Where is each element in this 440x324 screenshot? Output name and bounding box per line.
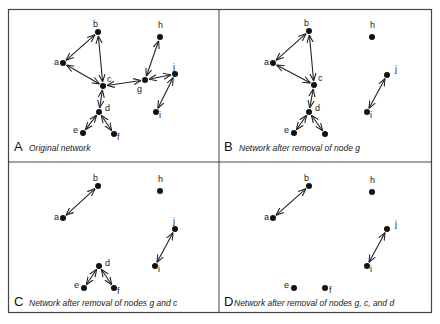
node-b bbox=[95, 29, 101, 35]
node-h bbox=[369, 189, 375, 195]
panel-caption: Network after removal of node g bbox=[239, 143, 360, 153]
node-e bbox=[81, 285, 87, 291]
node-label-a: a bbox=[54, 212, 59, 222]
node-label-j: j bbox=[172, 62, 175, 72]
node-e bbox=[80, 130, 86, 136]
node-label-f: f bbox=[117, 132, 120, 142]
panel-letter: C bbox=[14, 294, 23, 309]
node-a bbox=[270, 215, 276, 221]
edge-a-b bbox=[276, 34, 306, 61]
node-label-b: b bbox=[304, 173, 309, 183]
edge-g-j bbox=[149, 75, 171, 79]
node-label-a: a bbox=[264, 212, 269, 222]
panel-caption: Original network bbox=[29, 143, 91, 153]
panel-d: abhjiefDNetwork after removal of nodes g… bbox=[224, 173, 397, 309]
node-c bbox=[311, 82, 317, 88]
panel-b: abcdehijBNetwork after removal of node g bbox=[224, 18, 397, 154]
edge-j-i bbox=[369, 233, 385, 263]
node-label-d: d bbox=[105, 258, 110, 268]
edge-j-i bbox=[158, 78, 173, 109]
edge-d-f bbox=[311, 115, 322, 131]
node-g bbox=[142, 77, 148, 83]
node-label-j: j bbox=[394, 64, 397, 74]
node-label-g: g bbox=[137, 84, 142, 94]
edge-d-e bbox=[296, 115, 306, 129]
node-a bbox=[60, 60, 66, 66]
panel-letter: D bbox=[224, 294, 233, 309]
node-f bbox=[322, 285, 328, 291]
node-label-i: i bbox=[370, 110, 372, 120]
node-label-b: b bbox=[93, 19, 98, 29]
node-label-f: f bbox=[117, 286, 120, 296]
edge-d-e bbox=[86, 269, 96, 284]
node-label-e: e bbox=[73, 125, 78, 135]
edge-j-i bbox=[369, 79, 385, 109]
node-h bbox=[369, 34, 375, 40]
node-d bbox=[96, 263, 102, 269]
node-c bbox=[100, 83, 106, 89]
node-b bbox=[306, 183, 312, 189]
node-label-d: d bbox=[105, 103, 110, 113]
node-label-d: d bbox=[315, 103, 320, 113]
node-j bbox=[384, 72, 390, 78]
node-label-e: e bbox=[284, 125, 289, 135]
edge-g-h bbox=[146, 41, 158, 76]
node-label-i: i bbox=[370, 264, 372, 274]
node-label-a: a bbox=[264, 57, 269, 67]
node-label-h: h bbox=[370, 20, 375, 30]
edge-a-c bbox=[66, 65, 99, 84]
node-label-c: c bbox=[107, 74, 112, 84]
edge-b-c bbox=[98, 36, 102, 82]
edge-j-i bbox=[157, 233, 173, 263]
node-label-c: c bbox=[318, 73, 323, 83]
node-h bbox=[157, 188, 163, 194]
node-label-e: e bbox=[74, 280, 79, 290]
node-e bbox=[291, 130, 297, 136]
edge-c-d bbox=[100, 90, 103, 108]
panel-letter: B bbox=[224, 139, 233, 154]
node-h bbox=[157, 34, 163, 40]
panel-a: abcdefghijAOriginal network bbox=[14, 19, 178, 154]
node-label-e: e bbox=[284, 280, 289, 290]
edge-a-b bbox=[276, 189, 306, 216]
node-label-b: b bbox=[304, 18, 309, 28]
node-label-h: h bbox=[158, 20, 163, 30]
panel-caption: Network after removal of nodes g, c, and… bbox=[234, 298, 394, 308]
node-e bbox=[291, 285, 297, 291]
edge-c-g bbox=[107, 81, 141, 86]
node-j bbox=[172, 226, 178, 232]
panel-caption: Network after removal of nodes g and c bbox=[29, 298, 178, 308]
network-figure: abcdefghijAOriginal networkabcdehijBNetw… bbox=[0, 0, 440, 324]
panel-c: abhjidefCNetwork after removal of nodes … bbox=[14, 173, 178, 309]
panel-letter: A bbox=[14, 139, 23, 154]
node-label-j: j bbox=[172, 216, 175, 226]
node-d bbox=[96, 109, 102, 115]
edge-c-d bbox=[310, 89, 314, 108]
edge-d-f bbox=[101, 269, 111, 284]
node-j bbox=[384, 226, 390, 232]
edge-b-c bbox=[309, 35, 313, 81]
edge-d-e bbox=[85, 115, 96, 130]
node-b bbox=[306, 28, 312, 34]
node-d bbox=[306, 109, 312, 115]
node-label-i: i bbox=[158, 264, 160, 274]
node-label-j: j bbox=[394, 219, 397, 229]
node-f bbox=[322, 131, 328, 137]
node-label-a: a bbox=[54, 57, 59, 67]
edge-a-b bbox=[66, 35, 95, 61]
edge-a-b bbox=[66, 189, 95, 216]
node-a bbox=[270, 60, 276, 66]
node-label-h: h bbox=[158, 174, 163, 184]
node-b bbox=[95, 183, 101, 189]
node-label-i: i bbox=[159, 110, 161, 120]
node-label-b: b bbox=[93, 173, 98, 183]
node-label-f: f bbox=[329, 285, 332, 295]
edge-d-f bbox=[101, 115, 111, 130]
edge-a-c bbox=[277, 65, 311, 83]
node-label-h: h bbox=[370, 175, 375, 185]
node-a bbox=[60, 215, 66, 221]
